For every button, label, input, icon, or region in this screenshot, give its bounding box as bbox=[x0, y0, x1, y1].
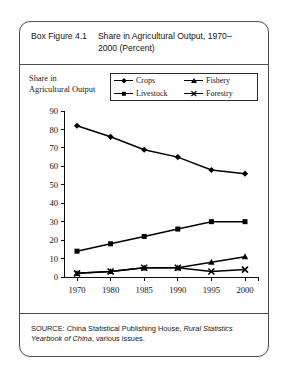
y-tick-label: 70 bbox=[49, 143, 58, 153]
y-axis-title: Share in Agricultural Output bbox=[29, 74, 99, 95]
series-livestock bbox=[75, 219, 248, 254]
data-point bbox=[175, 227, 180, 232]
data-point bbox=[242, 253, 248, 259]
series-forestry bbox=[74, 265, 248, 277]
plot-container: 0102030405060708090 19701980198519901995… bbox=[20, 105, 268, 313]
triangle-marker-icon bbox=[184, 76, 203, 85]
y-tick-label: 30 bbox=[49, 217, 58, 227]
series-crops bbox=[74, 123, 248, 177]
x-tick-label: 1980 bbox=[102, 285, 119, 295]
line-chart-svg: 0102030405060708090 19701980198519901995… bbox=[20, 105, 268, 313]
data-point bbox=[74, 123, 80, 129]
y-tick-label: 80 bbox=[49, 125, 58, 135]
x-tick-label: 2000 bbox=[236, 285, 253, 295]
series-line bbox=[77, 222, 245, 252]
figure-header: Box Figure 4.1 Share in Agricultural Out… bbox=[20, 22, 268, 65]
figure-label: Box Figure 4.1 bbox=[31, 30, 87, 54]
chart-area: Share in Agricultural Output Crops Fishe… bbox=[20, 65, 268, 314]
x-tick-label: 1995 bbox=[203, 285, 220, 295]
data-point bbox=[242, 171, 248, 177]
x-tick-label: 1970 bbox=[68, 285, 85, 295]
y-tick-label: 0 bbox=[54, 272, 58, 282]
data-point bbox=[208, 167, 214, 173]
x-tick-labels: 197019801985199019952000 bbox=[68, 285, 253, 295]
y-tick-label: 40 bbox=[49, 198, 58, 208]
x-tick-marks bbox=[77, 277, 258, 281]
y-tick-label: 50 bbox=[49, 180, 58, 190]
legend-item-fishery: Fishery bbox=[184, 76, 254, 85]
y-tick-label: 20 bbox=[49, 235, 58, 245]
data-point bbox=[142, 234, 147, 239]
legend-label: Crops bbox=[136, 76, 155, 85]
legend-item-crops: Crops bbox=[114, 76, 184, 85]
x-tick-label: 1985 bbox=[136, 285, 153, 295]
source-note: SOURCE: China Statistical Publishing Hou… bbox=[20, 314, 268, 345]
series-line bbox=[77, 268, 245, 274]
data-point bbox=[175, 154, 181, 160]
x-marker-icon: ✕ bbox=[184, 89, 203, 98]
square-marker-icon bbox=[114, 89, 133, 98]
data-point bbox=[75, 249, 80, 254]
source-prefix: SOURCE: China Statistical Publishing Hou… bbox=[31, 324, 183, 333]
data-point bbox=[243, 219, 248, 224]
series-layer bbox=[74, 123, 248, 277]
series-line bbox=[77, 126, 245, 174]
x-tick-label: 1990 bbox=[169, 285, 186, 295]
legend-label: Forestry bbox=[206, 89, 233, 98]
source-suffix: , various issues. bbox=[92, 334, 145, 343]
y-tick-label: 10 bbox=[49, 254, 58, 264]
chart-legend: Crops Fishery Livestock ✕ Forestry bbox=[110, 73, 258, 101]
y-tick-label: 90 bbox=[49, 106, 58, 116]
legend-item-livestock: Livestock bbox=[114, 89, 184, 98]
legend-label: Livestock bbox=[136, 89, 168, 98]
legend-item-forestry: ✕ Forestry bbox=[184, 89, 254, 98]
legend-label: Fishery bbox=[206, 76, 230, 85]
y-tick-label: 60 bbox=[49, 161, 58, 171]
y-tick-labels: 0102030405060708090 bbox=[49, 106, 58, 282]
data-point bbox=[209, 219, 214, 224]
data-point bbox=[108, 241, 113, 246]
data-point bbox=[141, 147, 147, 153]
data-point bbox=[108, 134, 114, 140]
diamond-marker-icon bbox=[114, 76, 133, 85]
figure-box: Box Figure 4.1 Share in Agricultural Out… bbox=[19, 21, 269, 357]
figure-title: Share in Agricultural Output, 1970–2000 … bbox=[98, 30, 248, 54]
y-tick-marks bbox=[61, 111, 65, 277]
